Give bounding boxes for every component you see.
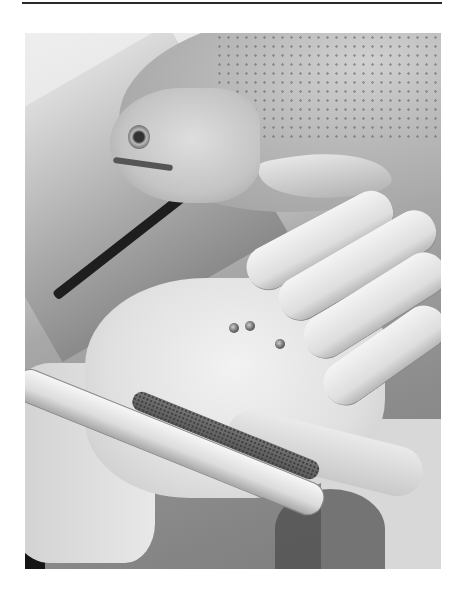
egg [229,323,239,333]
egg [245,321,255,331]
fish-eye [128,125,150,149]
egg [275,339,285,349]
top-rule [22,2,442,4]
figure-photograph [25,33,441,569]
